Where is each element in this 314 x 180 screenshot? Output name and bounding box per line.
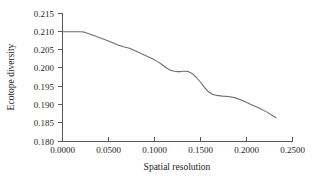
y-tick-label: 0.215 bbox=[34, 9, 55, 19]
x-tick-label: 0.0000 bbox=[50, 145, 75, 155]
y-tick-marks bbox=[58, 14, 63, 142]
y-tick-label: 0.210 bbox=[34, 27, 55, 37]
y-tick-label: 0.200 bbox=[34, 63, 55, 73]
x-tick-marks bbox=[63, 137, 293, 142]
x-tick-label: 0.2500 bbox=[280, 145, 305, 155]
y-tick-label: 0.190 bbox=[34, 100, 55, 110]
y-tick-labels: 0.215 0.210 0.205 0.200 0.195 0.190 0.18… bbox=[34, 9, 55, 147]
line-chart: 0.215 0.210 0.205 0.200 0.195 0.190 0.18… bbox=[0, 0, 314, 180]
y-tick-label: 0.195 bbox=[34, 82, 55, 92]
data-series-line bbox=[63, 32, 276, 118]
y-tick-label: 0.205 bbox=[34, 45, 55, 55]
x-tick-label: 0.2000 bbox=[234, 145, 259, 155]
x-tick-labels: 0.0000 0.0500 0.1000 0.1500 0.2000 0.250… bbox=[50, 145, 305, 155]
y-axis-title: Ecotope diversity bbox=[6, 43, 16, 110]
x-tick-label: 0.1000 bbox=[142, 145, 167, 155]
x-tick-label: 0.0500 bbox=[96, 145, 121, 155]
y-tick-label: 0.185 bbox=[34, 118, 55, 128]
x-tick-label: 0.1500 bbox=[188, 145, 213, 155]
x-axis-title: Spatial resolution bbox=[144, 162, 211, 172]
chart-figure: 0.215 0.210 0.205 0.200 0.195 0.190 0.18… bbox=[0, 0, 314, 180]
